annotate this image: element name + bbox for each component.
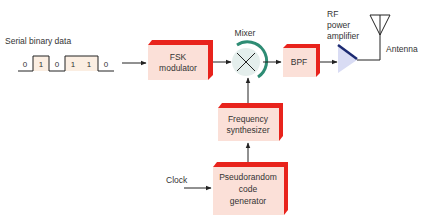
antenna: Antenna <box>357 15 418 60</box>
frequency-synthesizer-block: Frequency synthesizer <box>218 103 283 141</box>
block-top-edge <box>148 40 213 45</box>
amp-label-line3: amplifier <box>327 31 359 41</box>
prng-label-line1: Pseudorandom <box>219 172 277 182</box>
diagram-canvas: Serial binary data 0 1 0 1 1 0 FSK modul… <box>0 0 429 220</box>
bit-5: 0 <box>104 60 109 69</box>
bit-0: 0 <box>23 60 28 69</box>
block-side-edge <box>284 162 288 215</box>
antenna-label: Antenna <box>386 44 418 54</box>
block-top-edge <box>283 44 320 48</box>
fsk-label-line1: FSK <box>170 52 187 62</box>
amp-triangle <box>338 46 357 73</box>
clock-label: Clock <box>166 175 188 185</box>
fsk-modulator-block: FSK modulator <box>148 40 213 80</box>
amp-label-line2: power <box>327 20 350 30</box>
mixer: Mixer <box>232 28 267 77</box>
block-top-edge <box>218 103 283 108</box>
bpf-block: BPF <box>283 44 320 77</box>
antenna-feed <box>357 35 380 60</box>
block-top-edge <box>213 162 288 167</box>
prng-label-line2: code <box>239 184 258 194</box>
amp-label-line1: RF <box>327 9 338 19</box>
block-side-edge <box>316 44 320 77</box>
block-side-edge <box>279 103 283 141</box>
bit-4: 1 <box>87 60 92 69</box>
rf-amplifier: RF power amplifier <box>327 9 359 73</box>
antenna-icon <box>370 15 390 35</box>
pseudorandom-generator-block: Pseudorandom code generator <box>213 162 288 215</box>
bit-waveform: 0 1 0 1 1 0 <box>18 56 114 71</box>
fsk-label-line2: modulator <box>159 63 197 73</box>
bpf-label: BPF <box>291 57 308 67</box>
prng-label-line3: generator <box>230 196 267 206</box>
bit-1: 1 <box>39 60 44 69</box>
bit-2: 0 <box>55 60 60 69</box>
synth-label-line2: synthesizer <box>227 125 270 135</box>
synth-label-line1: Frequency <box>228 114 269 124</box>
block-side-edge <box>208 40 213 80</box>
bit-3: 1 <box>71 60 76 69</box>
mixer-label: Mixer <box>235 28 256 38</box>
serial-data-label: Serial binary data <box>5 36 71 46</box>
